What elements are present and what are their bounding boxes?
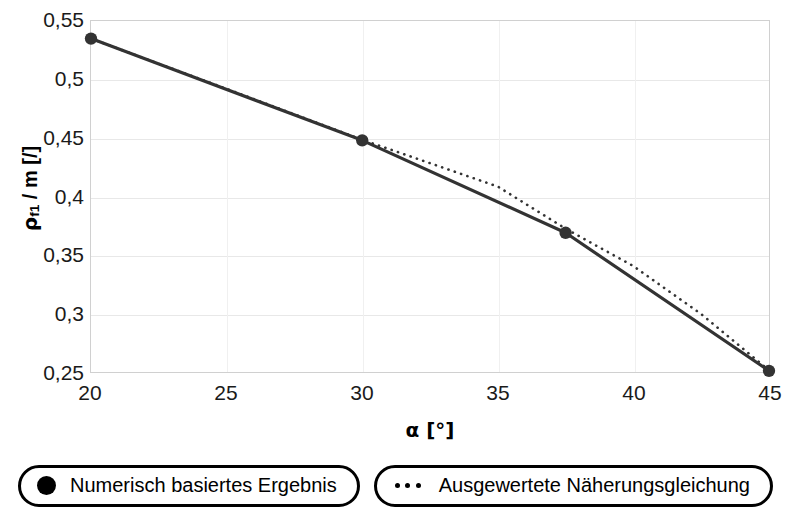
y-axis-title-rest: / m [/]: [19, 146, 41, 205]
y-axis-tick-label: 0,45: [4, 127, 84, 148]
x-axis-tick-label: 35: [458, 382, 538, 403]
x-axis-tick-labels: 202530354045: [90, 382, 770, 412]
y-axis-tick-label: 0,4: [4, 186, 84, 207]
y-axis-tick-label: 0,5: [4, 68, 84, 89]
x-axis-tick-label: 30: [322, 382, 402, 403]
y-axis-tick-label: 0,55: [4, 9, 84, 30]
y-axis-title-symbol: ρ: [18, 217, 42, 231]
dotted-line-marker-icon: [395, 483, 421, 488]
y-axis-tick-label: 0,3: [4, 303, 84, 324]
y-axis-title: ρf1 / m [/]: [18, 8, 43, 368]
series-numeric-line: [91, 39, 769, 371]
series-approximation-line: [91, 39, 769, 371]
y-axis-tick-label: 0,35: [4, 244, 84, 265]
x-axis-tick-label: 45: [730, 382, 791, 403]
series-layer: [91, 21, 769, 372]
legend-item-approximation[interactable]: Ausgewertete Näherungsgleichung: [374, 465, 773, 507]
x-axis-title-text: α [°]: [406, 418, 455, 442]
legend-item-numeric[interactable]: Numerisch basiertes Ergebnis: [18, 465, 360, 507]
x-axis-tick-label: 25: [186, 382, 266, 403]
y-axis-title-subscript: f1: [27, 205, 42, 217]
filled-circle-marker-icon: [37, 476, 56, 495]
legend-item-numeric-label: Numerisch basiertes Ergebnis: [70, 474, 337, 497]
legend-item-approximation-label: Ausgewertete Näherungsgleichung: [439, 474, 750, 497]
legend: Numerisch basiertes Ergebnis Ausgewertet…: [0, 458, 791, 514]
plot-area: [90, 20, 770, 373]
series-numeric-markers: [85, 32, 775, 377]
x-axis-tick-label: 20: [50, 382, 130, 403]
y-axis-tick-label: 0,25: [4, 362, 84, 383]
x-axis-title: α [°]: [90, 418, 770, 442]
x-axis-tick-label: 40: [594, 382, 674, 403]
chart-figure: 0,250,30,350,40,450,50,55 202530354045 α…: [0, 0, 791, 525]
